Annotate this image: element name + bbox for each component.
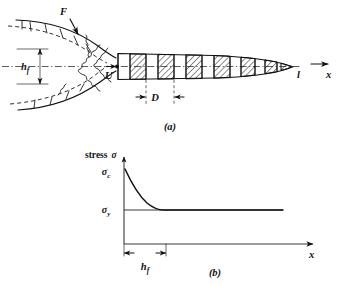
fiber-block [186, 55, 202, 79]
panel-a: F hf [2, 6, 331, 133]
fiber-block [158, 54, 174, 79]
label-hf-panel-b: hf [141, 261, 151, 275]
fiber-block [281, 63, 292, 70]
label-x-panel-a: x [325, 69, 331, 80]
fiber-blocks [130, 54, 292, 80]
figure-root: F hf [0, 0, 341, 290]
crack-flank-upper-dashed [8, 26, 107, 63]
label-hf-panel-a: hf [21, 61, 31, 75]
fiber-block [265, 60, 277, 74]
panel-b: stressσ σc σy hf x (b) [85, 150, 314, 279]
label-x-panel-b: x [308, 249, 314, 260]
label-velocity-U: U [105, 70, 114, 81]
dimension-D: D [136, 80, 184, 104]
label-D: D [150, 92, 159, 103]
dimension-hf-panel-b: hf [124, 244, 166, 275]
label-sigma-y: σy [102, 204, 111, 218]
label-force-F: F [59, 6, 67, 17]
caption-b: (b) [209, 267, 221, 279]
fiber-block [130, 54, 146, 80]
crack-flank-lower [18, 71, 116, 110]
label-crack-length-l: l [297, 69, 300, 80]
fiber-block [214, 56, 230, 79]
label-sigma-c: σc [102, 166, 111, 180]
y-axis-title: stressσ [85, 150, 118, 160]
caption-a: (a) [164, 121, 176, 133]
figure-svg: F hf [0, 0, 341, 290]
fiber-block [241, 57, 255, 76]
stress-curve [125, 169, 283, 210]
bridging-ligament-upper-2 [58, 84, 66, 95]
